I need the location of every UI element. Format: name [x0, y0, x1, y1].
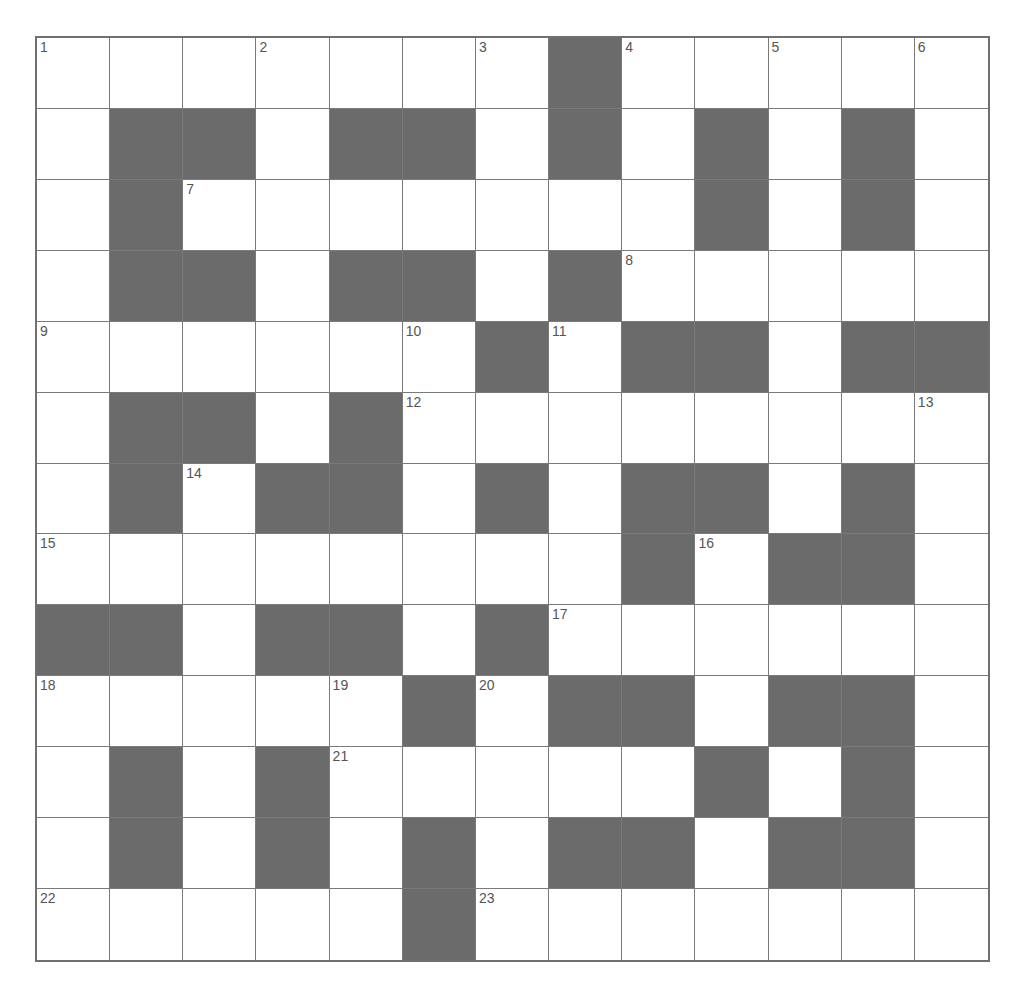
- answer-cell[interactable]: [476, 747, 549, 818]
- answer-cell[interactable]: [842, 393, 915, 464]
- answer-cell[interactable]: 17: [549, 605, 622, 676]
- answer-cell[interactable]: [330, 889, 403, 960]
- answer-cell[interactable]: [183, 818, 256, 889]
- answer-cell[interactable]: [695, 889, 768, 960]
- answer-cell[interactable]: [476, 534, 549, 605]
- answer-cell[interactable]: [695, 676, 768, 747]
- answer-cell[interactable]: [403, 464, 476, 535]
- answer-cell[interactable]: [256, 322, 329, 393]
- answer-cell[interactable]: 18: [37, 676, 110, 747]
- answer-cell[interactable]: [695, 818, 768, 889]
- answer-cell[interactable]: 23: [476, 889, 549, 960]
- answer-cell[interactable]: 20: [476, 676, 549, 747]
- answer-cell[interactable]: [769, 605, 842, 676]
- answer-cell[interactable]: 15: [37, 534, 110, 605]
- answer-cell[interactable]: [622, 889, 695, 960]
- answer-cell[interactable]: [183, 676, 256, 747]
- answer-cell[interactable]: 16: [695, 534, 768, 605]
- answer-cell[interactable]: [403, 605, 476, 676]
- answer-cell[interactable]: [476, 818, 549, 889]
- answer-cell[interactable]: [256, 889, 329, 960]
- answer-cell[interactable]: 10: [403, 322, 476, 393]
- answer-cell[interactable]: [256, 180, 329, 251]
- answer-cell[interactable]: [183, 322, 256, 393]
- answer-cell[interactable]: [622, 605, 695, 676]
- answer-cell[interactable]: [476, 251, 549, 322]
- answer-cell[interactable]: [622, 393, 695, 464]
- answer-cell[interactable]: [769, 747, 842, 818]
- answer-cell[interactable]: 8: [622, 251, 695, 322]
- answer-cell[interactable]: [403, 38, 476, 109]
- answer-cell[interactable]: [37, 393, 110, 464]
- answer-cell[interactable]: [330, 818, 403, 889]
- answer-cell[interactable]: [37, 109, 110, 180]
- answer-cell[interactable]: 13: [915, 393, 988, 464]
- answer-cell[interactable]: 9: [37, 322, 110, 393]
- answer-cell[interactable]: [695, 605, 768, 676]
- answer-cell[interactable]: [110, 889, 183, 960]
- answer-cell[interactable]: [403, 747, 476, 818]
- answer-cell[interactable]: [549, 464, 622, 535]
- answer-cell[interactable]: 2: [256, 38, 329, 109]
- answer-cell[interactable]: [37, 747, 110, 818]
- answer-cell[interactable]: [183, 38, 256, 109]
- answer-cell[interactable]: [37, 180, 110, 251]
- answer-cell[interactable]: [549, 393, 622, 464]
- answer-cell[interactable]: [915, 676, 988, 747]
- answer-cell[interactable]: 19: [330, 676, 403, 747]
- answer-cell[interactable]: [403, 534, 476, 605]
- answer-cell[interactable]: 7: [183, 180, 256, 251]
- answer-cell[interactable]: [769, 180, 842, 251]
- answer-cell[interactable]: [256, 534, 329, 605]
- answer-cell[interactable]: [622, 180, 695, 251]
- answer-cell[interactable]: [403, 180, 476, 251]
- answer-cell[interactable]: [110, 676, 183, 747]
- answer-cell[interactable]: [330, 322, 403, 393]
- answer-cell[interactable]: 6: [915, 38, 988, 109]
- answer-cell[interactable]: [769, 109, 842, 180]
- answer-cell[interactable]: [549, 180, 622, 251]
- answer-cell[interactable]: [549, 747, 622, 818]
- answer-cell[interactable]: [842, 605, 915, 676]
- answer-cell[interactable]: [183, 889, 256, 960]
- answer-cell[interactable]: 4: [622, 38, 695, 109]
- answer-cell[interactable]: [915, 747, 988, 818]
- answer-cell[interactable]: [183, 605, 256, 676]
- answer-cell[interactable]: [915, 889, 988, 960]
- answer-cell[interactable]: [256, 109, 329, 180]
- answer-cell[interactable]: [769, 464, 842, 535]
- answer-cell[interactable]: [37, 464, 110, 535]
- answer-cell[interactable]: [330, 534, 403, 605]
- answer-cell[interactable]: [915, 109, 988, 180]
- answer-cell[interactable]: [915, 605, 988, 676]
- answer-cell[interactable]: 5: [769, 38, 842, 109]
- answer-cell[interactable]: [695, 251, 768, 322]
- answer-cell[interactable]: [183, 747, 256, 818]
- answer-cell[interactable]: [769, 322, 842, 393]
- answer-cell[interactable]: [330, 180, 403, 251]
- answer-cell[interactable]: [37, 251, 110, 322]
- answer-cell[interactable]: [476, 180, 549, 251]
- answer-cell[interactable]: [915, 534, 988, 605]
- answer-cell[interactable]: [695, 38, 768, 109]
- answer-cell[interactable]: [256, 251, 329, 322]
- answer-cell[interactable]: [549, 889, 622, 960]
- answer-cell[interactable]: [915, 464, 988, 535]
- answer-cell[interactable]: [915, 180, 988, 251]
- answer-cell[interactable]: [915, 251, 988, 322]
- answer-cell[interactable]: [842, 38, 915, 109]
- answer-cell[interactable]: 12: [403, 393, 476, 464]
- answer-cell[interactable]: 3: [476, 38, 549, 109]
- answer-cell[interactable]: [37, 818, 110, 889]
- answer-cell[interactable]: [330, 38, 403, 109]
- answer-cell[interactable]: [622, 109, 695, 180]
- answer-cell[interactable]: [769, 889, 842, 960]
- answer-cell[interactable]: [842, 251, 915, 322]
- answer-cell[interactable]: 11: [549, 322, 622, 393]
- answer-cell[interactable]: [183, 534, 256, 605]
- answer-cell[interactable]: 21: [330, 747, 403, 818]
- answer-cell[interactable]: [549, 534, 622, 605]
- answer-cell[interactable]: [476, 393, 549, 464]
- answer-cell[interactable]: [622, 747, 695, 818]
- answer-cell[interactable]: [915, 818, 988, 889]
